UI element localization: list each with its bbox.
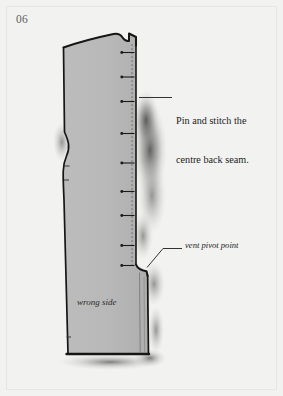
label-wrong-side: wrong side [77,297,116,307]
callout-pin-and-stitch: Pin and stitch the centre back seam. [176,88,249,192]
pattern-illustration [0,0,283,396]
callout-seam-line1: Pin and stitch the [176,114,249,127]
callout-seam-line2: centre back seam. [176,153,249,166]
page: 06 [0,0,283,396]
callout-vent-pivot-point: vent pivot point [185,240,238,251]
